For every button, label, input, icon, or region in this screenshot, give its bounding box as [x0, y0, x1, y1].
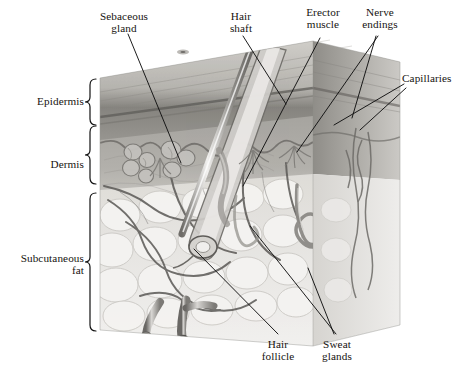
label-subcutaneous-fat: Subcutaneous fat [0, 252, 84, 276]
label-epidermis: Epidermis [2, 95, 84, 107]
layer-bracket-group [85, 79, 96, 331]
label-sebaceous-gland: Sebaceous gland [78, 10, 170, 34]
label-sweat-glands: Sweat glands [306, 338, 368, 362]
bracket-dermis [85, 126, 96, 184]
skin-block-illustration [0, 0, 461, 370]
label-erector-muscle: Erector muscle [290, 6, 356, 30]
label-hair-shaft: Hair shaft [208, 10, 274, 34]
skin-diagram-figure: Epidermis Dermis Subcutaneous fat Sebace… [0, 0, 461, 370]
bracket-epidermis [85, 79, 96, 125]
label-hair-follicle: Hair follicle [243, 338, 313, 362]
bracket-subcutaneous-fat [85, 193, 96, 331]
right-side-face [313, 41, 400, 346]
label-dermis: Dermis [2, 158, 84, 170]
front-face [91, 40, 325, 346]
label-nerve-endings: Nerve endings [352, 6, 408, 30]
label-capillaries: Capillaries [402, 72, 461, 84]
